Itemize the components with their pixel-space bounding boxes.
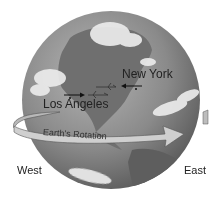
label-west: West bbox=[17, 165, 42, 176]
label-east: East bbox=[184, 165, 206, 176]
label-new-york: New York bbox=[122, 68, 173, 80]
rotation-band-right bbox=[203, 110, 208, 124]
earth-rotation-diagram: New York Los Angeles Earth's Rotation We… bbox=[0, 0, 223, 202]
label-los-angeles: Los Angeles bbox=[43, 98, 108, 110]
